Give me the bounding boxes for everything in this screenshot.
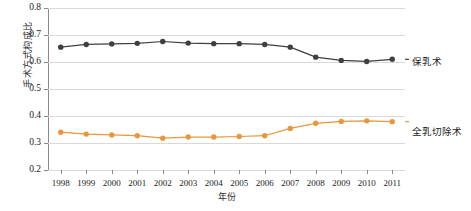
data-point xyxy=(390,119,395,124)
x-tick-mark xyxy=(214,170,215,174)
data-point xyxy=(237,41,242,46)
x-tick-label: 2006 xyxy=(256,178,274,188)
series-全乳切除术 xyxy=(58,118,395,141)
x-tick-label: 1999 xyxy=(77,178,95,188)
x-tick-mark xyxy=(163,170,164,174)
data-point xyxy=(186,40,191,45)
data-point xyxy=(84,42,89,47)
data-point xyxy=(288,126,293,131)
y-tick-label: 0.3 xyxy=(29,138,41,148)
data-point xyxy=(364,59,369,64)
plot-area: 0.80.70.60.50.40.30.2 199819992000200120… xyxy=(48,8,405,170)
data-point xyxy=(58,130,63,135)
y-tick-label: 0.7 xyxy=(29,30,41,40)
data-point xyxy=(160,135,165,140)
x-tick-mark xyxy=(392,170,393,174)
x-tick-label: 2004 xyxy=(205,178,223,188)
data-point xyxy=(109,132,114,137)
x-tick-label: 2003 xyxy=(179,178,197,188)
y-tick-label: 0.8 xyxy=(29,3,41,13)
x-tick-mark xyxy=(341,170,342,174)
data-point xyxy=(58,44,63,49)
data-point xyxy=(84,131,89,136)
x-tick-label: 2000 xyxy=(103,178,121,188)
data-point xyxy=(288,44,293,49)
x-tick-mark xyxy=(316,170,317,174)
x-tick-mark xyxy=(265,170,266,174)
data-point xyxy=(135,41,140,46)
data-point xyxy=(262,133,267,138)
data-point xyxy=(313,121,318,126)
x-tick-label: 2009 xyxy=(332,178,350,188)
x-axis-title: 年份 xyxy=(48,190,405,203)
data-point xyxy=(211,41,216,46)
data-point xyxy=(211,134,216,139)
x-tick-label: 2011 xyxy=(383,178,401,188)
x-tick-mark xyxy=(188,170,189,174)
data-point xyxy=(109,41,114,46)
x-tick-label: 2001 xyxy=(128,178,146,188)
x-tick-mark xyxy=(290,170,291,174)
x-tick-mark xyxy=(112,170,113,174)
legend-item-quanruqiechushu: 全乳切除术 xyxy=(412,124,462,138)
data-point xyxy=(262,42,267,47)
x-tick-label: 2005 xyxy=(230,178,248,188)
series-layer xyxy=(48,8,405,170)
data-point xyxy=(364,118,369,123)
data-point xyxy=(186,134,191,139)
data-point xyxy=(237,134,242,139)
x-tick-label: 1998 xyxy=(52,178,70,188)
y-tick-label: 0.6 xyxy=(29,57,41,67)
x-tick-mark xyxy=(61,170,62,174)
x-tick-mark xyxy=(137,170,138,174)
data-point xyxy=(339,58,344,63)
series-保乳术 xyxy=(58,39,395,64)
x-tick-label: 2002 xyxy=(154,178,172,188)
y-tick-mark xyxy=(44,170,48,171)
x-tick-mark xyxy=(367,170,368,174)
legend-item-baoruzhu: 保乳术 xyxy=(412,54,442,68)
y-tick-label: 0.4 xyxy=(29,111,41,121)
x-tick-label: 2010 xyxy=(358,178,376,188)
data-point xyxy=(390,57,395,62)
gridline xyxy=(48,170,405,171)
data-point xyxy=(135,133,140,138)
data-point xyxy=(160,39,165,44)
x-tick-label: 2008 xyxy=(307,178,325,188)
x-tick-mark xyxy=(239,170,240,174)
x-tick-mark xyxy=(86,170,87,174)
data-point xyxy=(313,54,318,59)
line-chart: 手术方式构成比 0.80.70.60.50.40.30.2 1998199920… xyxy=(0,0,471,211)
data-point xyxy=(339,119,344,124)
x-tick-label: 2007 xyxy=(281,178,299,188)
y-tick-label: 0.2 xyxy=(29,165,41,175)
y-tick-label: 0.5 xyxy=(29,84,41,94)
